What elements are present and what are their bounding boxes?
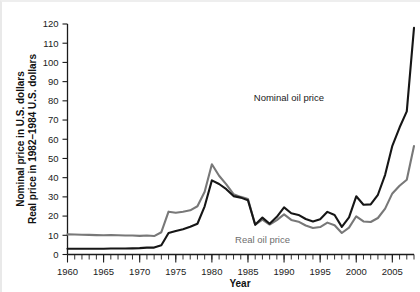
data-series: [68, 28, 415, 249]
y-axis-ticks: [63, 24, 68, 255]
y-tick-label: 70: [48, 114, 59, 125]
chart-figure: 0102030405060708090100110120 19601965197…: [0, 0, 420, 292]
annotation-real-oil-price: Real oil price: [235, 234, 290, 245]
y-tick-label: 0: [53, 249, 58, 260]
oil-price-line-chart: 0102030405060708090100110120 19601965197…: [2, 2, 420, 292]
y-tick-label: 90: [48, 76, 59, 87]
x-axis-tick-labels: 1960196519701975198019851990199520002005: [57, 266, 403, 277]
y-tick-label: 30: [48, 191, 59, 202]
series-line-nominal-oil-price: [68, 28, 415, 249]
x-tick-label: 1960: [57, 266, 78, 277]
y-tick-label: 10: [48, 230, 59, 241]
x-tick-label: 1965: [93, 266, 114, 277]
y-axis-label-line-1: Nominal price in U.S. dollars: [15, 71, 26, 207]
x-tick-label: 1985: [237, 266, 258, 277]
x-tick-label: 2005: [382, 266, 403, 277]
x-tick-label: 2000: [346, 266, 367, 277]
x-axis-major-ticks: [68, 255, 393, 263]
annotation-nominal-oil-price: Nominal oil price: [254, 92, 324, 103]
y-tick-label: 50: [48, 153, 59, 164]
y-tick-label: 120: [43, 18, 59, 29]
y-tick-label: 40: [48, 172, 59, 183]
x-tick-label: 1995: [310, 266, 331, 277]
y-axis-tick-labels: 0102030405060708090100110120: [43, 18, 59, 260]
x-tick-label: 1980: [201, 266, 222, 277]
y-axis-label-line-2: Real price in 1982–1984 U.S. dollars: [27, 54, 38, 225]
y-tick-label: 100: [43, 57, 59, 68]
x-axis-label: Year: [229, 278, 250, 289]
x-tick-label: 1990: [273, 266, 294, 277]
series-line-real-oil-price: [68, 146, 415, 236]
y-tick-label: 80: [48, 95, 59, 106]
y-tick-label: 20: [48, 210, 59, 221]
x-axis-minor-ticks: [68, 255, 415, 260]
x-tick-label: 1975: [165, 266, 186, 277]
y-tick-label: 60: [48, 134, 59, 145]
y-tick-label: 110: [43, 38, 58, 49]
x-tick-label: 1970: [129, 266, 150, 277]
